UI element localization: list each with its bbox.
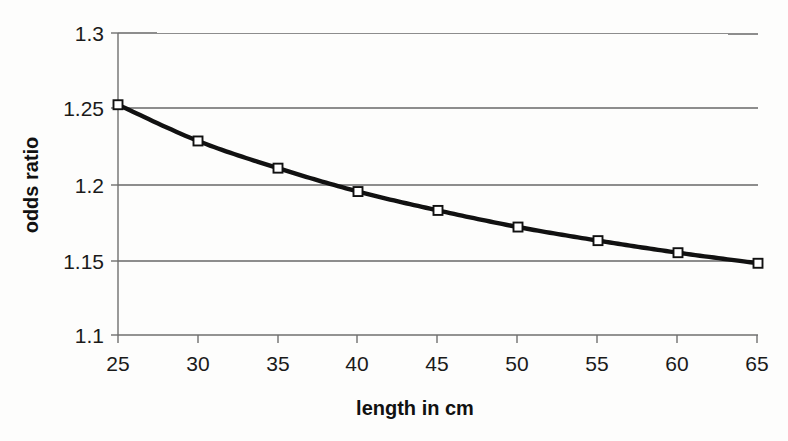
y-tick-label-1.2: 1.2: [75, 174, 104, 197]
x-tick-label-45: 45: [425, 352, 448, 375]
x-tick-label-55: 55: [585, 352, 608, 375]
data-point-marker: [114, 100, 123, 109]
x-tick-label-40: 40: [345, 352, 368, 375]
x-tick-label-50: 50: [505, 352, 528, 375]
x-tick-label-35: 35: [266, 352, 289, 375]
data-point-marker: [754, 259, 763, 268]
y-axis-title: odds ratio: [20, 137, 42, 234]
data-point-marker: [674, 248, 683, 257]
x-tick-label-30: 30: [186, 352, 209, 375]
data-point-marker: [434, 206, 443, 215]
x-tick-label-65: 65: [745, 352, 768, 375]
x-tick-label-25: 25: [106, 352, 129, 375]
x-tick-label-60: 60: [665, 352, 688, 375]
chart-canvas: 1.3 1.25 1.2 1.15 1.1 25 30 35 40 45 50 …: [0, 0, 788, 441]
y-tick-label-1.3: 1.3: [75, 22, 104, 45]
data-point-marker: [274, 164, 283, 173]
data-point-marker: [594, 236, 603, 245]
x-axis-tick-labels: 25 30 35 40 45 50 55 60 65: [106, 352, 768, 375]
chart-screenshot: 1.3 1.25 1.2 1.15 1.1 25 30 35 40 45 50 …: [0, 0, 788, 441]
y-tick-label-1.15: 1.15: [63, 250, 104, 273]
data-point-marker: [354, 187, 363, 196]
y-tick-label-1.25: 1.25: [63, 97, 104, 120]
data-point-marker: [194, 136, 203, 145]
y-tick-label-1.1: 1.1: [75, 324, 104, 347]
odds-ratio-line-chart: 1.3 1.25 1.2 1.15 1.1 25 30 35 40 45 50 …: [0, 0, 788, 441]
x-axis-title: length in cm: [356, 397, 474, 419]
data-point-marker: [514, 223, 523, 232]
